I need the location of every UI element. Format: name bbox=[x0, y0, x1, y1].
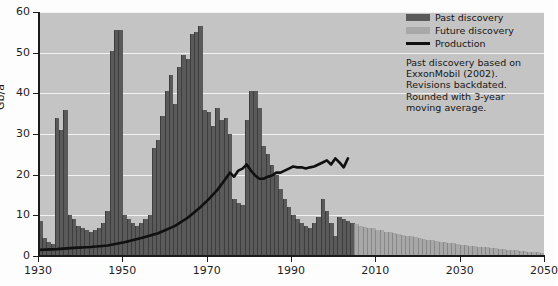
legend-label-future: Future discovery bbox=[435, 25, 514, 37]
y-tick-label: 0 bbox=[0, 249, 30, 262]
x-tick bbox=[122, 257, 123, 262]
y-axis-title: Gb/a bbox=[0, 84, 7, 110]
x-tick bbox=[375, 257, 376, 262]
legend-label-past: Past discovery bbox=[435, 12, 503, 24]
annotation-line-2: ExxonMobil (2002). bbox=[406, 68, 544, 79]
legend: Past discovery Future discovery Producti… bbox=[406, 12, 514, 51]
x-tick-label: 2050 bbox=[530, 264, 558, 277]
annotation-line-1: Past discovery based on bbox=[406, 57, 544, 68]
x-tick-label: 1950 bbox=[108, 264, 136, 277]
x-tick bbox=[291, 257, 292, 262]
legend-label-production: Production bbox=[435, 38, 486, 50]
x-tick-label: 1930 bbox=[24, 264, 52, 277]
x-tick-label: 1970 bbox=[193, 264, 221, 277]
y-tick-label: 30 bbox=[0, 127, 30, 140]
annotation-line-3: Revisions backdated. bbox=[406, 79, 544, 90]
x-tick bbox=[38, 257, 39, 262]
y-tick-label: 10 bbox=[0, 208, 30, 221]
y-tick bbox=[33, 215, 38, 216]
x-tick-label: 2030 bbox=[446, 264, 474, 277]
y-tick bbox=[33, 175, 38, 176]
y-tick-label: 50 bbox=[0, 46, 30, 59]
x-tick-label: 2010 bbox=[361, 264, 389, 277]
legend-swatch-past-icon bbox=[406, 14, 430, 21]
legend-swatch-production-icon bbox=[406, 42, 430, 45]
y-tick bbox=[33, 93, 38, 94]
x-tick-label: 1990 bbox=[277, 264, 305, 277]
annotation-line-4: Rounded with 3-year bbox=[406, 91, 544, 102]
legend-item-future-discovery: Future discovery bbox=[406, 25, 514, 37]
y-tick-label: 20 bbox=[0, 168, 30, 181]
y-tick-label: 60 bbox=[0, 5, 30, 18]
y-axis bbox=[38, 12, 40, 257]
legend-item-production: Production bbox=[406, 38, 514, 50]
legend-swatch-future-icon bbox=[406, 27, 430, 34]
annotation-line-5: moving average. bbox=[406, 102, 544, 113]
y-tick bbox=[33, 12, 38, 13]
x-tick bbox=[544, 257, 545, 262]
x-tick bbox=[460, 257, 461, 262]
annotation-note: Past discovery based on ExxonMobil (2002… bbox=[406, 57, 544, 113]
x-tick bbox=[207, 257, 208, 262]
legend-item-past-discovery: Past discovery bbox=[406, 12, 514, 24]
y-tick bbox=[33, 134, 38, 135]
y-tick bbox=[33, 53, 38, 54]
